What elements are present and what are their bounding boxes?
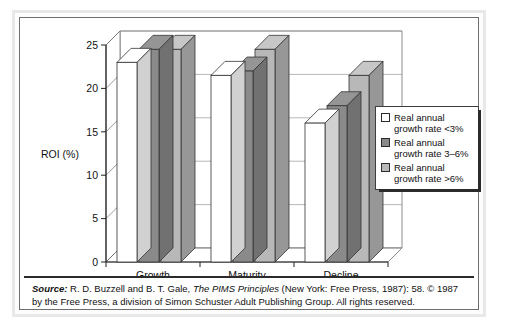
legend-drop-shadow (478, 110, 481, 192)
legend-item-growth-gt6: Real annualgrowth rate >6% (381, 162, 473, 184)
source-divider (24, 276, 474, 278)
source-citation: Source: R. D. Buzzell and B. T. Gale, Th… (32, 283, 468, 308)
y-axis-tick-label: 0 (92, 256, 98, 268)
x-axis-label-maturity: Maturity (228, 269, 266, 276)
x-axis-label-growth: Growth (136, 269, 170, 276)
y-axis-tick-label: 15 (86, 126, 98, 138)
legend-swatch-white (381, 113, 390, 122)
figure-inner-border: 0510152025ROI (%)GrowthMaturityDecline R… (19, 17, 479, 310)
legend-label-3to6: Real annualgrowth rate 3–6% (394, 137, 468, 159)
source-label: Source: (32, 283, 67, 294)
source-book-title: The PIMS Principles (193, 283, 279, 294)
bar-growth-series-1 (117, 48, 151, 262)
bar-maturity-series-1 (211, 61, 245, 262)
y-axis-tick-label: 5 (92, 212, 98, 224)
source-text-part1: R. D. Buzzell and B. T. Gale, (67, 283, 193, 294)
legend-item-growth-lt3: Real annualgrowth rate <3% (381, 112, 473, 134)
legend-item-growth-3to6: Real annualgrowth rate 3–6% (381, 137, 473, 159)
bar-decline-series-1 (305, 109, 339, 262)
legend-swatch-light-gray (381, 163, 390, 172)
figure-frame: 0510152025ROI (%)GrowthMaturityDecline R… (12, 10, 486, 317)
y-axis-title: ROI (%) (41, 148, 79, 160)
legend-swatch-dark-gray (381, 138, 390, 147)
x-axis-label-decline: Decline (323, 269, 358, 276)
legend-label-gt6: Real annualgrowth rate >6% (394, 162, 463, 184)
legend-label-lt3: Real annualgrowth rate <3% (394, 112, 463, 134)
y-axis-tick-label: 25 (86, 39, 98, 51)
chart-legend: Real annualgrowth rate <3% Real annualgr… (375, 106, 479, 190)
y-axis-tick-label: 10 (86, 169, 98, 181)
y-axis-tick-label: 20 (86, 82, 98, 94)
